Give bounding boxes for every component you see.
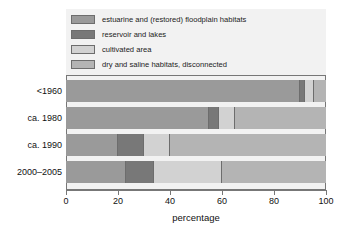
legend-item-estuarine[interactable]: estuarine and (restored) floodplain habi… <box>71 14 246 25</box>
legend-swatch-dry-saline <box>71 60 95 69</box>
x-tick <box>222 190 223 195</box>
bar-segment[interactable] <box>219 107 235 129</box>
chart-container: estuarine and (restored) floodplain habi… <box>0 0 352 237</box>
x-tick-label: 60 <box>207 196 237 206</box>
stacked-bar <box>66 107 326 129</box>
category-label: ca. 1980 <box>2 113 62 123</box>
bar-segment[interactable] <box>66 107 209 129</box>
legend-label-reservoir: reservoir and lakes <box>102 30 166 39</box>
x-tick <box>118 190 119 195</box>
chart-legend: estuarine and (restored) floodplain habi… <box>66 9 326 76</box>
bar-segment[interactable] <box>118 134 144 156</box>
bar-segment[interactable] <box>154 161 222 183</box>
x-tick-label: 80 <box>259 196 289 206</box>
bar-segment[interactable] <box>235 107 326 129</box>
x-tick-label: 100 <box>311 196 341 206</box>
legend-swatch-estuarine <box>71 15 95 24</box>
legend-item-cultivated[interactable]: cultivated area <box>71 44 151 55</box>
bar-segment[interactable] <box>66 161 126 183</box>
x-tick-label: 0 <box>51 196 81 206</box>
bar-row <box>66 107 326 129</box>
bar-row <box>66 80 326 102</box>
x-tick <box>274 190 275 195</box>
category-label: 2000–2005 <box>2 167 62 177</box>
legend-label-dry-saline: dry and saline habitats, disconnected <box>102 60 227 69</box>
x-tick-label: 40 <box>155 196 185 206</box>
x-axis-title: percentage <box>66 212 326 223</box>
legend-label-cultivated: cultivated area <box>102 45 151 54</box>
stacked-bar <box>66 134 326 156</box>
bar-segment[interactable] <box>144 134 170 156</box>
x-tick-label: 20 <box>103 196 133 206</box>
x-axis-line <box>66 190 326 191</box>
category-label: ca. 1990 <box>2 140 62 150</box>
x-tick <box>66 190 67 195</box>
stacked-bar <box>66 161 326 183</box>
legend-item-reservoir[interactable]: reservoir and lakes <box>71 29 166 40</box>
bar-segment[interactable] <box>222 161 326 183</box>
bar-segment[interactable] <box>209 107 219 129</box>
stacked-bar <box>66 80 326 102</box>
x-tick <box>170 190 171 195</box>
x-tick <box>326 190 327 195</box>
legend-label-estuarine: estuarine and (restored) floodplain habi… <box>102 15 246 24</box>
legend-swatch-reservoir <box>71 30 95 39</box>
bar-segment[interactable] <box>66 134 118 156</box>
bar-segment[interactable] <box>66 80 300 102</box>
category-label: <1960 <box>2 86 62 96</box>
bar-segment[interactable] <box>305 80 314 102</box>
legend-swatch-cultivated <box>71 45 95 54</box>
bar-row <box>66 134 326 156</box>
bar-segment[interactable] <box>170 134 326 156</box>
bar-segment[interactable] <box>126 161 155 183</box>
bar-segment[interactable] <box>314 80 326 102</box>
legend-item-dry-saline[interactable]: dry and saline habitats, disconnected <box>71 59 227 70</box>
bar-row <box>66 161 326 183</box>
